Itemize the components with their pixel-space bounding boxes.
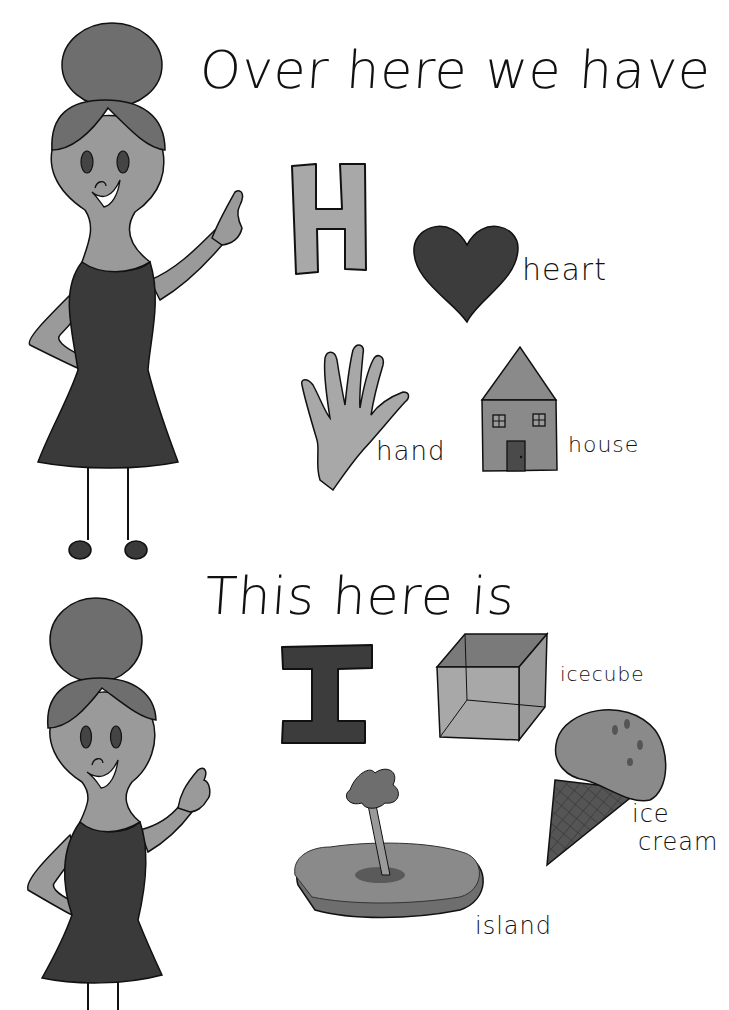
hand-label: hand bbox=[376, 436, 445, 466]
ice-cream-label-line2: cream bbox=[638, 828, 718, 856]
icecube-icon bbox=[435, 632, 550, 742]
letter-i-graphic bbox=[280, 645, 375, 745]
section-h-heading: Over here we have bbox=[198, 40, 713, 100]
heart-label: heart bbox=[522, 252, 607, 287]
house-label: house bbox=[568, 432, 639, 457]
house-icon bbox=[480, 345, 560, 475]
island-label: island bbox=[475, 912, 552, 940]
island-icon bbox=[290, 765, 490, 925]
icecube-label: icecube bbox=[560, 662, 645, 686]
teacher-character-waving bbox=[0, 590, 280, 1010]
section-i-heading: This here is bbox=[203, 566, 517, 626]
letter-h-graphic bbox=[290, 164, 370, 274]
ice-cream-label-line1: ice bbox=[632, 800, 670, 828]
heart-icon bbox=[412, 220, 522, 325]
